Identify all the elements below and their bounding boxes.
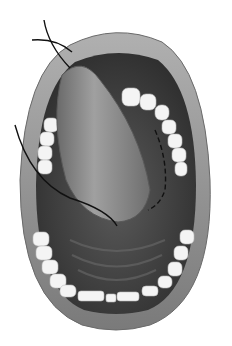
mouth-drawing bbox=[0, 0, 232, 346]
mouth-illustration bbox=[0, 0, 232, 346]
